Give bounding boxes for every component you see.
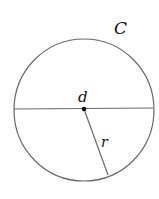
circle-diagram: C d r: [0, 0, 159, 199]
diameter-label: d: [78, 88, 88, 106]
center-point: [82, 107, 87, 112]
circle-label: C: [114, 18, 127, 38]
radius-label: r: [101, 134, 109, 150]
